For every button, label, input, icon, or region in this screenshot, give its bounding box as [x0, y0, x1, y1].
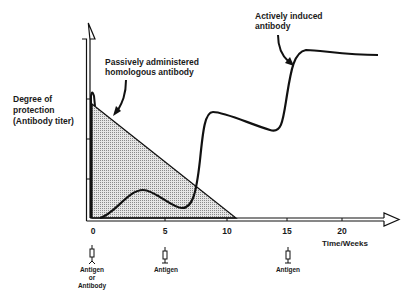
- y-axis-label: Degree of protection (Antibody titer): [13, 94, 74, 127]
- passive-antibody-area: [92, 104, 236, 218]
- active-annotation-arrow: [278, 35, 289, 62]
- syringe-icon: [285, 247, 291, 263]
- syringe-icon: [162, 247, 168, 263]
- x-axis-label: Time/Weeks: [322, 239, 368, 249]
- passive-annotation-arrow: [118, 80, 126, 110]
- injection-label-week-15: Antigen: [276, 266, 300, 274]
- x-tick-15: 15: [282, 226, 291, 236]
- active-antibody-label: Actively induced antibody: [255, 11, 323, 31]
- x-tick-5: 5: [163, 226, 168, 236]
- injection-label-week-5: Antigen: [154, 266, 178, 274]
- x-tick-10: 10: [222, 226, 231, 236]
- syringe-icon: [89, 245, 95, 264]
- diagram-canvas: [0, 0, 409, 302]
- injection-label-week-0: Antigen or Antibody: [78, 266, 106, 290]
- x-tick-0: 0: [91, 226, 96, 236]
- passive-antibody-label: Passively administered homologous antibo…: [105, 57, 199, 77]
- x-tick-20: 20: [337, 226, 346, 236]
